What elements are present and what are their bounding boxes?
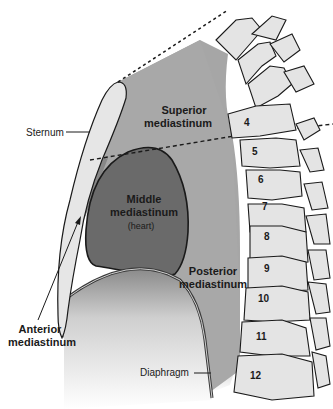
vertebra-label-6: 6: [258, 174, 264, 185]
vertebra-label-12: 12: [250, 370, 262, 381]
vertebra-label-11: 11: [256, 331, 267, 342]
vertebra-label-7: 7: [262, 201, 268, 212]
middle-label-line2: mediastinum: [110, 206, 178, 218]
sternum-label: Sternum: [26, 127, 64, 138]
diaphragm-label: Diaphragm: [140, 367, 189, 378]
superior-label-line2: mediastinum: [144, 117, 212, 129]
posterior-label-line1: Posterior: [189, 265, 238, 277]
vertebra-label-10: 10: [258, 293, 270, 304]
vertebra-label-9: 9: [264, 263, 270, 274]
anterior-label-line1: Anterior: [19, 323, 63, 335]
vertebra-label-4: 4: [244, 117, 250, 128]
anterior-label-line2: mediastinum: [8, 336, 76, 348]
posterior-label-line2: mediastinum: [179, 278, 247, 290]
vertebra-label-8: 8: [264, 231, 270, 242]
mediastinum-diagram: 4 5 6 7 8 9 10 11 12 Superior mediastinu…: [0, 0, 333, 409]
vertebra-label-5: 5: [252, 146, 258, 157]
middle-label-line1: Middle: [127, 193, 162, 205]
middle-label-note: (heart): [128, 221, 155, 231]
superior-label-line1: Superior: [161, 104, 207, 116]
